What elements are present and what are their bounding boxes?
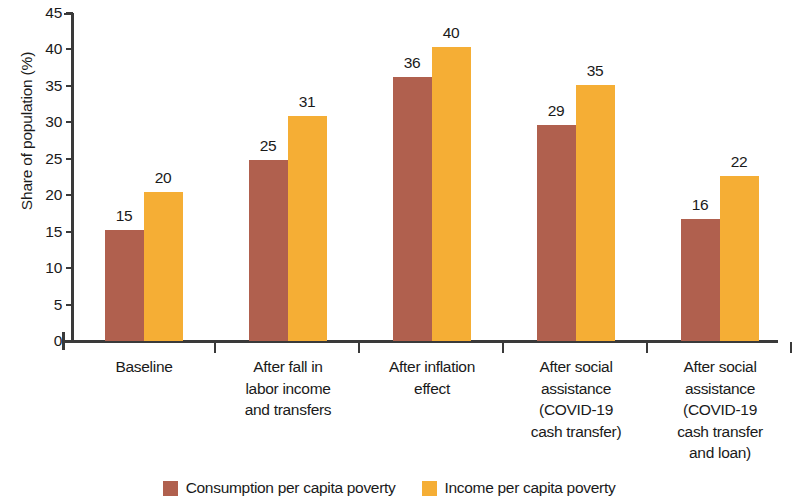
x-axis-category-line: After social: [645, 356, 795, 378]
plot-area: 15202531364029351622: [72, 13, 778, 341]
bar-income[interactable]: [144, 192, 183, 341]
legend-label: Consumption per capita poverty: [186, 479, 396, 497]
bar-value-label: 36: [385, 54, 439, 72]
x-axis-category-line: (COVID-19: [645, 399, 795, 421]
bar-value-label: 22: [712, 153, 766, 171]
bar-value-label: 16: [673, 196, 727, 214]
bar-consumption[interactable]: [681, 219, 720, 341]
y-axis-tick-label: 10: [28, 259, 62, 277]
x-axis-category-label: After socialassistance(COVID-19cash tran…: [501, 356, 651, 442]
bar-group: 2935: [504, 13, 648, 341]
legend-swatch-icon: [422, 481, 437, 496]
bar-value-label: 25: [241, 137, 295, 155]
x-axis-category-label: After inflationeffect: [357, 356, 507, 399]
bar-income[interactable]: [720, 176, 759, 341]
x-axis-tick-mark: [790, 342, 792, 353]
bar-group: 1520: [72, 13, 216, 341]
bar-consumption[interactable]: [105, 230, 144, 341]
x-axis-category-label: After fall inlabor incomeand transfers: [213, 356, 363, 421]
x-axis-category-label: After socialassistance(COVID-19cash tran…: [645, 356, 795, 464]
bar-income[interactable]: [576, 85, 615, 341]
x-axis-category-line: and loan): [645, 442, 795, 464]
bar-group: 3640: [360, 13, 504, 341]
bar-value-label: 20: [136, 169, 190, 187]
bar-group: 2531: [216, 13, 360, 341]
bar-consumption[interactable]: [537, 125, 576, 341]
x-axis-category-line: effect: [357, 378, 507, 400]
bar-value-label: 40: [424, 24, 478, 42]
x-axis-category-line: After social: [501, 356, 651, 378]
x-axis-tick-mark: [358, 342, 360, 353]
x-axis-tick-mark: [646, 342, 648, 353]
chart-legend: Consumption per capita povertyIncome per…: [0, 479, 778, 497]
bar-consumption[interactable]: [393, 77, 432, 341]
x-axis-category-line: assistance: [645, 378, 795, 400]
x-axis-category-line: (COVID-19: [501, 399, 651, 421]
x-axis-category-line: After fall in: [213, 356, 363, 378]
legend-swatch-icon: [163, 481, 178, 496]
y-axis-tick-label: 20: [28, 186, 62, 204]
x-axis-category-line: assistance: [501, 378, 651, 400]
legend-item[interactable]: Consumption per capita poverty: [163, 479, 396, 497]
bar-consumption[interactable]: [249, 160, 288, 341]
bar-value-label: 29: [529, 102, 583, 120]
bar-value-label: 31: [280, 93, 334, 111]
bar-income[interactable]: [432, 47, 471, 341]
x-axis-category-line: cash transfer: [645, 421, 795, 443]
bar-value-label: 35: [568, 62, 622, 80]
x-axis-category-line: Baseline: [69, 356, 219, 378]
x-axis-category-line: and transfers: [213, 399, 363, 421]
bar-value-label: 15: [97, 207, 151, 225]
y-axis-tick-label: 0: [28, 332, 62, 350]
x-axis-tick-mark: [502, 342, 504, 353]
y-axis-tick-label: 40: [28, 40, 62, 58]
y-axis-tick-label: 45: [28, 4, 62, 22]
x-axis-category-label: Baseline: [69, 356, 219, 378]
x-axis-tick-mark: [214, 342, 216, 353]
y-axis-tick-label: 5: [28, 296, 62, 314]
y-axis-zero-tick: [62, 332, 65, 350]
legend-label: Income per capita poverty: [445, 479, 616, 497]
x-axis-category-line: cash transfer): [501, 421, 651, 443]
y-axis-tick-label: 25: [28, 150, 62, 168]
x-axis-category-line: After inflation: [357, 356, 507, 378]
y-axis-tick-label: 30: [28, 113, 62, 131]
y-axis-tick-label: 35: [28, 77, 62, 95]
x-axis-category-line: labor income: [213, 378, 363, 400]
y-axis-tick-label: 15: [28, 223, 62, 241]
legend-item[interactable]: Income per capita poverty: [422, 479, 616, 497]
bar-group: 1622: [648, 13, 792, 341]
bar-income[interactable]: [288, 116, 327, 341]
